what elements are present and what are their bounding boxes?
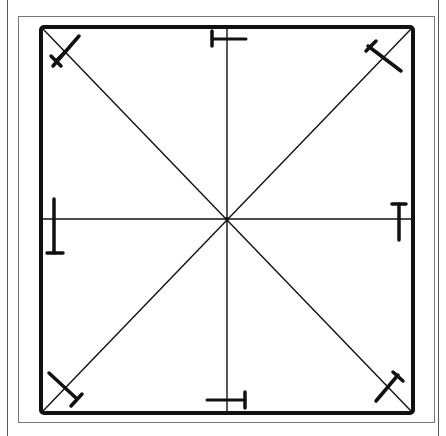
marker-left-icon [47, 199, 63, 253]
marker-bottom-icon [207, 392, 245, 408]
center-point [225, 217, 229, 221]
marker-right-icon [392, 204, 406, 240]
diagram-canvas [0, 0, 446, 436]
marker-bottom-left-icon [49, 373, 82, 406]
marker-bottom-right-icon [376, 372, 403, 401]
marker-top-icon [212, 31, 246, 46]
compass-square-diagram [0, 0, 446, 436]
